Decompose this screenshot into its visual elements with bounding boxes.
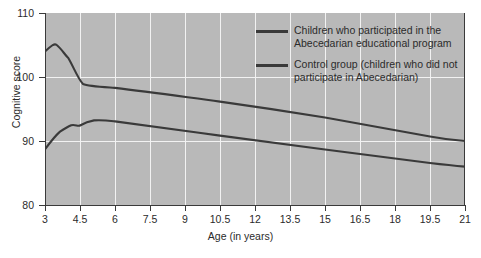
x-tick-mark bbox=[185, 206, 186, 211]
x-tick-mark bbox=[115, 206, 116, 211]
chart-figure: 110 100 90 80 3 4.5 6 7.5 9 10.5 12 13.5… bbox=[0, 0, 481, 258]
y-tick-mark bbox=[39, 141, 46, 142]
legend-label-control: Control group (children who did not part… bbox=[294, 58, 474, 83]
legend: Children who participated in the Abeceda… bbox=[256, 24, 474, 92]
x-tick-label: 12 bbox=[249, 213, 261, 225]
y-axis-line bbox=[45, 13, 46, 206]
x-tick-label: 7.5 bbox=[143, 213, 158, 225]
x-tick-label: 21 bbox=[459, 213, 471, 225]
legend-label-line1: Children who participated in the bbox=[294, 24, 474, 37]
y-tick-label: 110 bbox=[17, 7, 34, 19]
x-tick-label: 16.5 bbox=[350, 213, 370, 225]
x-tick-mark bbox=[150, 206, 151, 211]
x-tick-mark bbox=[430, 206, 431, 211]
legend-label-line2: participate in Abecedarian) bbox=[294, 71, 474, 84]
x-tick-label: 19.5 bbox=[420, 213, 440, 225]
x-tick-mark bbox=[220, 206, 221, 211]
x-tick-label: 13.5 bbox=[280, 213, 300, 225]
x-tick-mark bbox=[465, 206, 466, 211]
x-tick-mark bbox=[360, 206, 361, 211]
legend-swatch-line bbox=[256, 64, 288, 67]
x-tick-label: 6 bbox=[112, 213, 118, 225]
x-tick-label: 15 bbox=[319, 213, 331, 225]
y-tick-mark bbox=[39, 13, 46, 14]
y-tick-label: 80 bbox=[22, 199, 34, 211]
legend-entry-abecedarian: Children who participated in the Abeceda… bbox=[256, 24, 474, 49]
legend-entry-control: Control group (children who did not part… bbox=[256, 58, 474, 83]
legend-label-abecedarian: Children who participated in the Abeceda… bbox=[294, 24, 474, 49]
x-tick-label: 18 bbox=[389, 213, 401, 225]
x-tick-label: 4.5 bbox=[73, 213, 88, 225]
x-tick-mark bbox=[325, 206, 326, 211]
x-tick-mark bbox=[290, 206, 291, 211]
series-line-control bbox=[45, 120, 465, 166]
x-tick-label: 9 bbox=[182, 213, 188, 225]
x-tick-mark bbox=[45, 206, 46, 211]
legend-swatch-line bbox=[256, 30, 288, 33]
x-axis-title: Age (in years) bbox=[0, 230, 481, 242]
x-tick-label: 3 bbox=[42, 213, 48, 225]
legend-label-line1: Control group (children who did not bbox=[294, 58, 474, 71]
y-tick-label: 90 bbox=[22, 135, 34, 147]
y-tick-mark bbox=[39, 77, 46, 78]
x-tick-mark bbox=[80, 206, 81, 211]
y-axis-title: Cognitive score bbox=[10, 32, 22, 152]
x-tick-label: 10.5 bbox=[210, 213, 230, 225]
x-tick-mark bbox=[255, 206, 256, 211]
x-tick-mark bbox=[395, 206, 396, 211]
legend-label-line2: Abecedarian educational program bbox=[294, 37, 474, 50]
